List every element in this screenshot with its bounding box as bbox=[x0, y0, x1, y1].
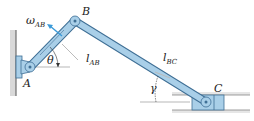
omega-label: ωAB bbox=[26, 15, 45, 29]
theta-label: θ bbox=[47, 55, 54, 66]
gamma-label: γ bbox=[150, 83, 157, 94]
pin-b bbox=[70, 16, 80, 26]
pin-c bbox=[201, 97, 211, 107]
omega-arrow-icon bbox=[47, 24, 62, 36]
lab-label: lAB bbox=[86, 53, 100, 67]
lbc-label: lBC bbox=[163, 52, 177, 66]
pin-a bbox=[25, 62, 35, 72]
lab-dimension-line bbox=[62, 44, 78, 60]
point-a-label: A bbox=[23, 78, 31, 89]
point-b-label: B bbox=[82, 6, 90, 17]
point-c-label: C bbox=[214, 83, 222, 94]
